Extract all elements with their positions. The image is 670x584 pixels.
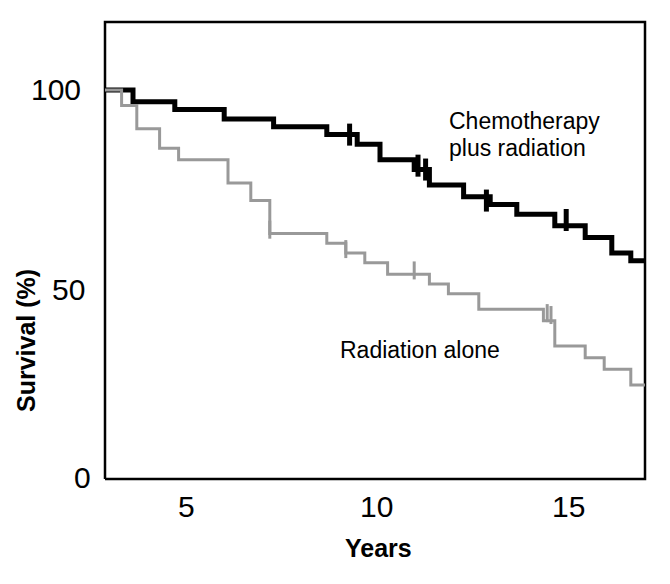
survival-chart-figure: 100 50 0 5 10 15 Years Survival (%) Chem…	[0, 0, 670, 584]
x-axis-tick-10: 10	[360, 492, 393, 522]
y-axis-tick-0: 0	[74, 463, 91, 493]
y-axis-tick-100: 100	[31, 75, 81, 105]
curve-label-radiation-alone: Radiation alone	[340, 337, 500, 364]
y-axis-tick-50: 50	[52, 275, 85, 305]
y-axis-title: Survival (%)	[14, 269, 39, 412]
x-axis-title: Years	[345, 536, 412, 561]
x-axis-tick-5: 5	[178, 492, 195, 522]
x-axis-tick-15: 15	[552, 492, 585, 522]
curve-label-chemotherapy-plus-radiation: Chemotherapy plus radiation	[449, 108, 600, 162]
